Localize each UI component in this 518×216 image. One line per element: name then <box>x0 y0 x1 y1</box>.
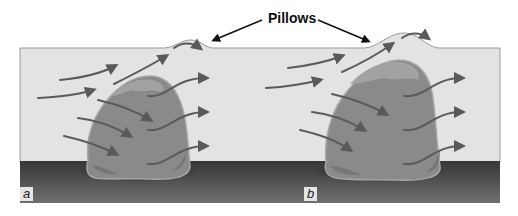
diagram-canvas <box>0 0 518 216</box>
panel-label-a: a <box>20 187 33 201</box>
pointer-arrow-b <box>318 20 368 41</box>
pillows-label: Pillows <box>268 10 316 26</box>
pillow-lava-diagram: Pillows a b <box>0 0 518 216</box>
pointer-arrow-a <box>214 20 262 40</box>
panel-label-b: b <box>304 187 317 201</box>
